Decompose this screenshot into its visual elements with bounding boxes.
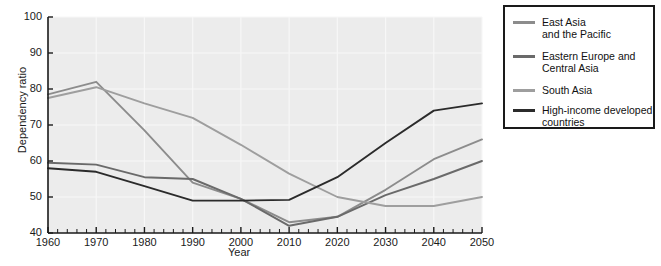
legend-color-swatch-icon <box>513 89 535 92</box>
legend-item-3[interactable]: High-income developed countries <box>513 104 652 128</box>
legend-color-swatch-icon <box>513 21 535 24</box>
legend-label: South Asia <box>542 84 592 96</box>
legend-label: East Asia and the Pacific <box>542 16 611 40</box>
legend-item-2[interactable]: South Asia <box>513 84 592 96</box>
legend-color-swatch-icon <box>513 109 535 112</box>
legend-label: Eastern Europe and Central Asia <box>542 50 635 74</box>
line-chart-svg <box>0 0 500 266</box>
legend-item-0[interactable]: East Asia and the Pacific <box>513 16 611 40</box>
legend-item-1[interactable]: Eastern Europe and Central Asia <box>513 50 635 74</box>
chart-plot-region: Dependency ratio Year 100908070605040 19… <box>0 0 500 266</box>
chart-figure: Dependency ratio Year 100908070605040 19… <box>0 0 661 266</box>
chart-legend: East Asia and the PacificEastern Europe … <box>503 5 655 129</box>
legend-color-swatch-icon <box>513 55 535 58</box>
legend-label: High-income developed countries <box>542 104 652 128</box>
